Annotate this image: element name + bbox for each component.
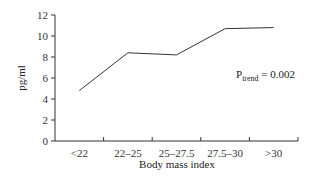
x-tick-label: <22	[71, 147, 88, 159]
x-ticks: <2222–2525–27.527.5–30>30	[71, 137, 298, 159]
y-axis-label: pg/ml	[15, 65, 27, 91]
y-tick-label: 0	[43, 135, 49, 147]
y-tick-label: 12	[37, 9, 48, 21]
y-tick-label: 10	[37, 30, 49, 42]
chart: 024681012 <2222–2525–27.527.5–30>30 pg/m…	[0, 0, 313, 181]
y-tick-label: 2	[43, 114, 49, 126]
y-tick-label: 8	[43, 51, 49, 63]
x-axis-label: Body mass index	[139, 158, 215, 170]
x-tick-label: >30	[265, 147, 283, 159]
y-tick-label: 4	[43, 93, 49, 105]
p-trend-annotation: Ptrend = 0.002	[236, 68, 295, 83]
y-ticks: 024681012	[37, 9, 55, 147]
x-tick-label: 22–25	[114, 147, 142, 159]
y-tick-label: 6	[43, 72, 49, 84]
